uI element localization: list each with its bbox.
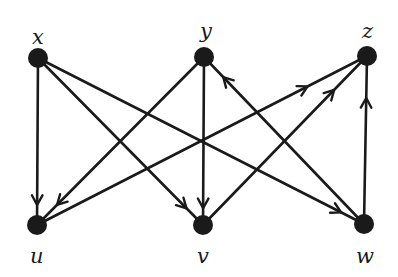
- node-label-u: u: [30, 244, 44, 268]
- node-y: [194, 47, 214, 67]
- graph-canvas: xyzuvw: [0, 0, 398, 277]
- node-z: [357, 46, 377, 66]
- edge-x-to-u: [37, 58, 38, 225]
- edges-layer: [32, 56, 371, 225]
- node-x: [28, 48, 48, 68]
- node-label-z: z: [361, 19, 374, 43]
- node-label-x: x: [32, 25, 44, 49]
- node-label-y: y: [199, 19, 213, 43]
- node-u: [27, 215, 47, 235]
- node-label-v: v: [197, 244, 209, 268]
- edge-w-to-z: [364, 56, 367, 224]
- node-v: [193, 215, 213, 235]
- node-label-w: w: [356, 244, 374, 268]
- node-w: [354, 214, 374, 234]
